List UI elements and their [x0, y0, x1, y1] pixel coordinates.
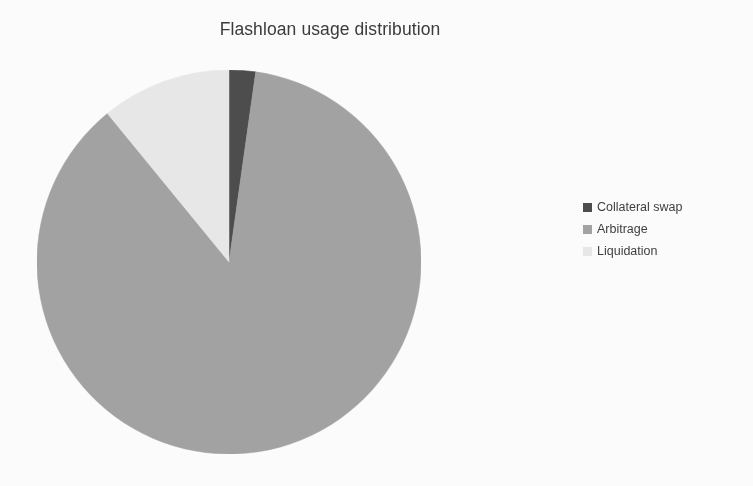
chart-legend: Collateral swapArbitrageLiquidation: [583, 196, 743, 262]
pie-slice-group: [37, 70, 421, 454]
legend-item[interactable]: Arbitrage: [583, 218, 743, 239]
pie-chart-svg: [37, 70, 421, 454]
legend-item[interactable]: Liquidation: [583, 240, 743, 261]
legend-item-label: Arbitrage: [597, 222, 648, 236]
legend-item-label: Liquidation: [597, 244, 657, 258]
legend-swatch-icon: [583, 225, 592, 234]
chart-page: Flashloan usage distribution Collateral …: [0, 0, 753, 486]
pie-chart: [37, 70, 421, 454]
legend-swatch-icon: [583, 247, 592, 256]
legend-item[interactable]: Collateral swap: [583, 196, 743, 217]
legend-swatch-icon: [583, 203, 592, 212]
legend-item-label: Collateral swap: [597, 200, 682, 214]
chart-title: Flashloan usage distribution: [0, 19, 660, 40]
